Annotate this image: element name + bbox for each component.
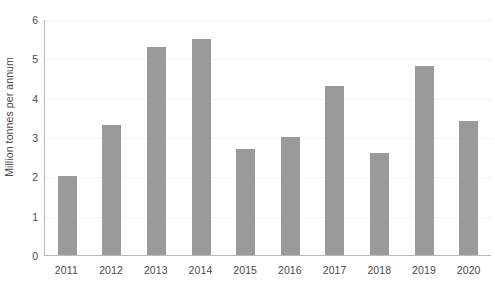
bar-2017[interactable]: [325, 86, 344, 255]
bar-2018[interactable]: [370, 153, 389, 255]
x-tick-label-2018: 2018: [357, 262, 402, 278]
bar-2015[interactable]: [236, 149, 255, 255]
bar-slot: [446, 20, 491, 255]
bar-chart-figure: Million tonnes per annum 6 5 4 3 2 1 0 2…: [0, 0, 495, 290]
bar-2012[interactable]: [102, 125, 121, 255]
bar-slot: [90, 20, 135, 255]
bar-2013[interactable]: [147, 47, 166, 255]
bar-slot: [45, 20, 90, 255]
bar-slot: [313, 20, 358, 255]
y-tick-label-1: 1: [22, 211, 38, 222]
bar-slot: [402, 20, 447, 255]
bar-slot: [357, 20, 402, 255]
x-tick-label-2014: 2014: [178, 262, 223, 278]
bar-slot: [134, 20, 179, 255]
x-tick-label-2012: 2012: [89, 262, 134, 278]
x-axis-tick-labels: 2011201220132014201520162017201820192020: [44, 262, 491, 278]
x-tick-label-2017: 2017: [312, 262, 357, 278]
bar-2020[interactable]: [459, 121, 478, 255]
x-tick-label-2016: 2016: [268, 262, 313, 278]
bar-slot: [223, 20, 268, 255]
bar-slot: [179, 20, 224, 255]
y-tick-label-0: 0: [22, 251, 38, 262]
y-axis-title: Million tonnes per annum: [0, 0, 18, 262]
bar-2019[interactable]: [415, 66, 434, 255]
bar-2016[interactable]: [281, 137, 300, 255]
y-tick-label-2: 2: [22, 172, 38, 183]
y-tick-label-5: 5: [22, 54, 38, 65]
bar-slot: [268, 20, 313, 255]
bars-layer: [45, 20, 491, 255]
bar-2011[interactable]: [58, 176, 77, 255]
y-tick-label-3: 3: [22, 133, 38, 144]
x-tick-label-2019: 2019: [402, 262, 447, 278]
bar-2014[interactable]: [192, 39, 211, 255]
x-tick-label-2011: 2011: [44, 262, 89, 278]
y-axis-tick-labels: 6 5 4 3 2 1 0: [22, 12, 38, 262]
y-tick-label-4: 4: [22, 93, 38, 104]
y-tick-label-6: 6: [22, 15, 38, 26]
plot-area: [44, 20, 491, 256]
x-tick-label-2015: 2015: [223, 262, 268, 278]
x-tick-label-2020: 2020: [446, 262, 491, 278]
x-tick-label-2013: 2013: [133, 262, 178, 278]
